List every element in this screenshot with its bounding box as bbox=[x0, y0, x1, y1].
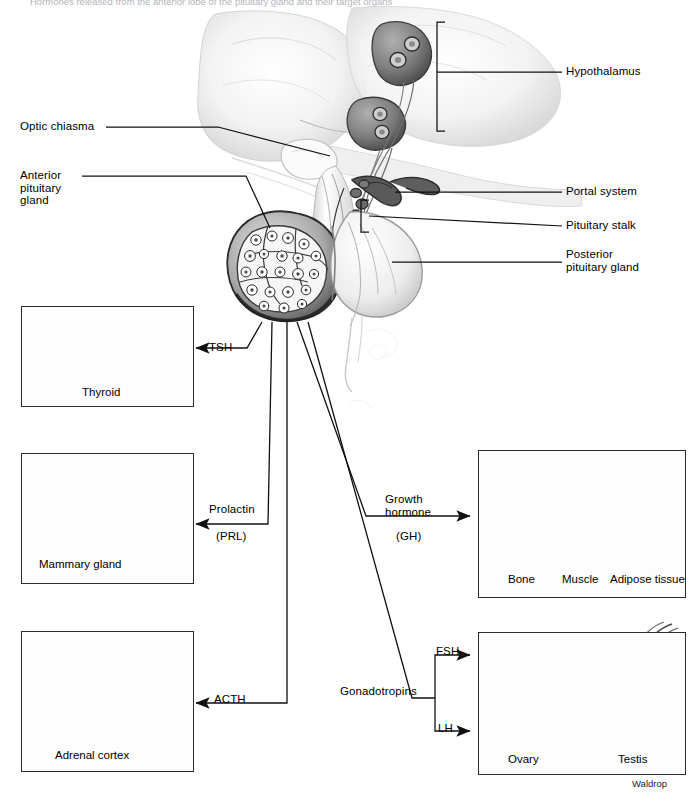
pituitary-stalk-leader bbox=[369, 216, 562, 226]
artist-credit: Waldrop bbox=[632, 778, 667, 789]
figure-canvas: Hormones released from the anterior lobe… bbox=[0, 0, 698, 805]
label-prolactin: Prolactin bbox=[209, 503, 255, 516]
background-texture bbox=[348, 329, 397, 408]
caption-thyroid: Thyroid bbox=[82, 386, 120, 398]
caption-muscle: Muscle bbox=[562, 573, 598, 585]
label-growth-hormone-abbrev: (GH) bbox=[396, 530, 421, 543]
anterior-pituitary-illustration bbox=[227, 211, 341, 321]
label-tsh: TSH bbox=[209, 341, 232, 354]
label-pituitary-stalk: Pituitary stalk bbox=[566, 219, 636, 232]
fsh-arrow bbox=[435, 655, 470, 698]
label-hypothalamus: Hypothalamus bbox=[566, 65, 641, 78]
posterior-pituitary-illustration bbox=[331, 212, 422, 392]
label-gonadotropins: Gonadotropins bbox=[340, 685, 417, 698]
label-growth-hormone: Growth hormone bbox=[385, 493, 431, 518]
caption-testis: Testis bbox=[618, 753, 647, 765]
caption-adrenal-cortex: Adrenal cortex bbox=[55, 749, 129, 761]
label-acth: ACTH bbox=[214, 693, 246, 706]
label-optic-chiasma: Optic chiasma bbox=[20, 120, 94, 133]
label-portal-system: Portal system bbox=[566, 185, 637, 198]
prolactin-arrow bbox=[196, 322, 272, 524]
growth-hormone-arrow bbox=[297, 322, 470, 516]
caption-mammary-gland: Mammary gland bbox=[39, 558, 121, 570]
label-fsh: FSH bbox=[436, 645, 459, 658]
caption-bone: Bone bbox=[508, 573, 535, 585]
label-anterior-pituitary-gland: Anterior pituitary gland bbox=[20, 169, 61, 207]
label-prolactin-abbrev: (PRL) bbox=[216, 530, 247, 543]
label-lh: LH bbox=[438, 722, 453, 735]
caption-ovary: Ovary bbox=[508, 753, 539, 765]
anterior-pituitary-leader bbox=[82, 176, 270, 228]
caption-adipose-tissue: Adipose tissue bbox=[610, 573, 685, 585]
hormone-arrow-lines bbox=[196, 322, 470, 731]
label-posterior-pituitary-gland: Posterior pituitary gland bbox=[566, 248, 639, 273]
